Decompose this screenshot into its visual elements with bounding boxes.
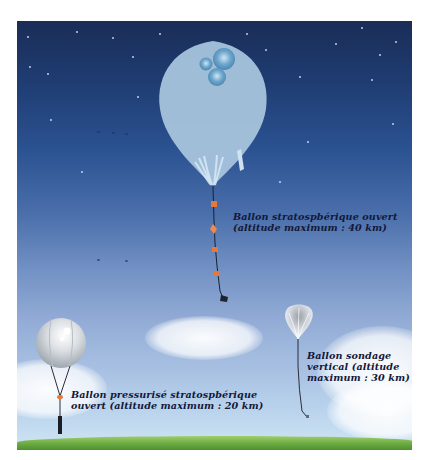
payload-1 [211, 201, 217, 207]
pressurized-balloon [36, 318, 86, 434]
balloons-drawing [17, 21, 412, 450]
gondola [220, 295, 228, 302]
payload-4 [214, 271, 220, 276]
label-stratospheric-open: Ballon stratospbérique ouvert (altitude … [233, 211, 397, 233]
payload-2 [210, 224, 217, 234]
label-pressurized-stratospheric: Ballon pressurisé stratospbérique ouvert… [71, 389, 263, 411]
illustration-frame: Ballon stratospbérique ouvert (altitude … [17, 21, 412, 450]
label-vertical-sounding: Ballon sondage vertical (altitude maximu… [307, 350, 410, 383]
payload-3 [212, 247, 218, 252]
stratospheric-balloon [159, 41, 266, 302]
